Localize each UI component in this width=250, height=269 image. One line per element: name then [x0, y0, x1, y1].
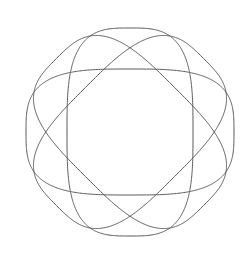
rose-lobe-3 [33, 35, 226, 228]
lobe-group [26, 28, 234, 236]
rose-lobe-1 [33, 35, 226, 228]
rose-lobe-0 [26, 69, 234, 195]
rose-lobe-2 [67, 28, 193, 236]
figure-canvas [0, 0, 250, 269]
rose-curve-drawing [0, 0, 250, 269]
